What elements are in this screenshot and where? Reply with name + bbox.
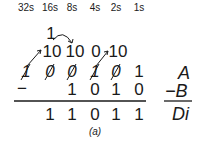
- borrow-arrows: [27, 35, 108, 66]
- diagram-strokes: [0, 0, 201, 145]
- strike-marks: [21, 64, 120, 80]
